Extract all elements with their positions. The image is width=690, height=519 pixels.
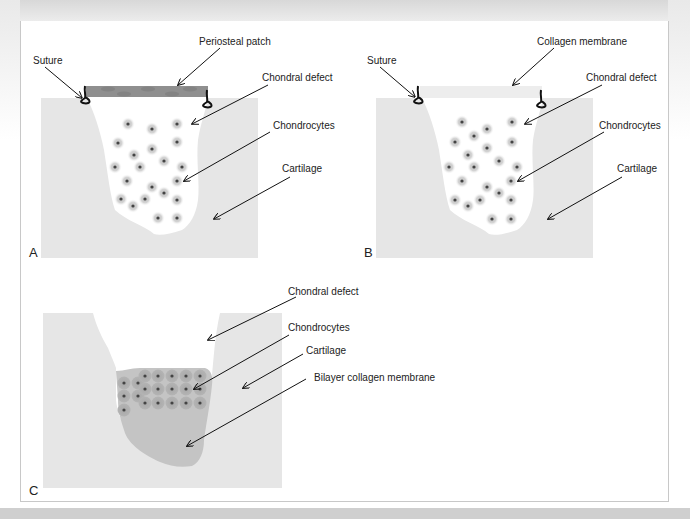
panel-letter-c: C: [29, 484, 38, 498]
panel-letter-a: A: [29, 246, 38, 260]
panel-letter-b: B: [364, 246, 373, 260]
label-periosteal-patch: Periosteal patch: [199, 36, 271, 48]
label-suture-b: Suture: [367, 55, 396, 67]
label-chondrocytes-b: Chondrocytes: [599, 120, 661, 132]
label-chondral-defect-b: Chondral defect: [586, 72, 657, 84]
label-cartilage-a: Cartilage: [282, 163, 322, 175]
label-collagen-membrane: Collagen membrane: [537, 36, 627, 48]
arrow-suture-b: [380, 67, 415, 97]
label-cartilage-b: Cartilage: [617, 163, 657, 175]
panel-c: [43, 297, 306, 488]
label-chondrocytes-a: Chondrocytes: [273, 120, 335, 132]
label-chondral-defect-c: Chondral defect: [288, 286, 359, 298]
label-chondral-defect-a: Chondral defect: [262, 72, 333, 84]
panel-a: [41, 48, 290, 258]
label-suture-a: Suture: [33, 55, 62, 67]
collagen-membrane-b: [420, 86, 542, 98]
label-cartilage-c: Cartilage: [306, 345, 346, 357]
arrow-suture-a: [45, 67, 82, 98]
label-bilayer-collagen-membrane: Bilayer collagen membrane: [314, 372, 435, 384]
arrow-patch-a: [178, 48, 220, 85]
label-chondrocytes-c: Chondrocytes: [288, 322, 350, 334]
arrow-membrane-b: [513, 48, 554, 85]
